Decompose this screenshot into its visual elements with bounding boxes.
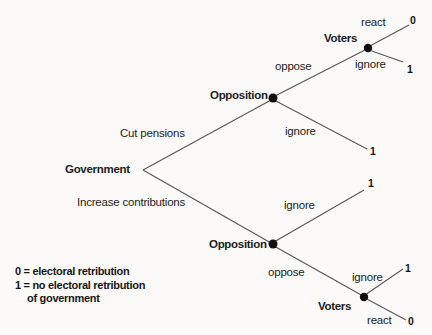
node-voters-bottom-label: Voters	[318, 300, 351, 312]
branch-oppose-bottom-label: oppose	[268, 266, 305, 278]
branch-oppose-top-label: oppose	[275, 60, 312, 72]
node-voters-top-dot	[364, 44, 372, 52]
outcome-ignore-voters-top: 1	[407, 64, 413, 74]
legend: 0 = electoral retribution 1 = no elector…	[15, 265, 145, 306]
outcome-ignore-opposition-top: 1	[370, 146, 376, 156]
branch-ignore-opposition-top-label: ignore	[285, 125, 316, 137]
edge-react-top	[368, 25, 409, 47]
outcome-ignore-opposition-bottom: 1	[368, 178, 374, 188]
node-voters-top-label: Voters	[324, 32, 357, 44]
node-opposition-top-label: Opposition	[210, 89, 268, 101]
edge-ignore-opposition-bottom	[274, 190, 364, 242]
outcome-ignore-voters-bottom: 1	[405, 263, 411, 273]
node-opposition-bottom-label: Opposition	[209, 238, 267, 250]
legend-line-3: of government	[15, 292, 145, 306]
legend-line-1: 0 = electoral retribution	[15, 265, 145, 279]
node-voters-bottom-dot	[360, 293, 368, 301]
branch-react-top-label: react	[361, 16, 386, 28]
branch-ignore-voters-bottom-label: ignore	[352, 271, 383, 283]
node-opposition-bottom-dot	[269, 240, 278, 249]
branch-react-bottom-label: react	[367, 314, 392, 326]
legend-line-2: 1 = no electoral retribution	[15, 279, 145, 293]
branch-ignore-voters-top-label: ignore	[355, 58, 386, 70]
outcome-react-top: 0	[410, 15, 416, 25]
node-opposition-top-dot	[269, 94, 278, 103]
outcome-react-bottom: 0	[408, 316, 414, 326]
branch-cut-pensions-label: Cut pensions	[120, 127, 185, 139]
node-government-label: Government	[65, 163, 130, 175]
branch-increase-contributions-label: Increase contributions	[77, 196, 185, 208]
branch-ignore-opposition-bottom-label: ignore	[284, 199, 315, 211]
edge-oppose-top	[273, 49, 367, 97]
game-tree-figure: Government Opposition Voters Opposition …	[0, 0, 432, 335]
